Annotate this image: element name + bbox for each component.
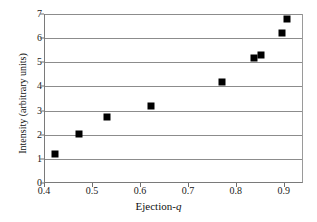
data-point — [257, 52, 264, 59]
x-tick-mark — [188, 183, 189, 187]
gridline — [45, 86, 302, 87]
plot-area — [44, 14, 303, 183]
data-point — [284, 15, 291, 22]
data-point — [219, 79, 226, 86]
x-tick-label: 0.6 — [125, 186, 155, 196]
y-tick-label: 1 — [18, 154, 42, 164]
x-tick-mark — [284, 183, 285, 187]
x-tick-mark — [236, 183, 237, 187]
gridline — [45, 159, 302, 160]
x-tick-mark — [140, 183, 141, 187]
y-tick-label: 3 — [18, 106, 42, 116]
y-tick-label: 6 — [18, 33, 42, 43]
y-tick-label: 2 — [18, 130, 42, 140]
data-point — [147, 102, 154, 109]
x-axis-label-variable: q — [176, 200, 182, 212]
data-point — [51, 151, 58, 158]
y-tick-label: 4 — [18, 81, 42, 91]
gridline — [45, 38, 302, 39]
y-tick-label: 7 — [18, 9, 42, 19]
data-point — [250, 54, 257, 61]
x-tick-label: 0.8 — [221, 186, 251, 196]
gridline — [45, 135, 302, 136]
x-tick-label: 0.9 — [269, 186, 299, 196]
x-tick-label: 0.5 — [77, 186, 107, 196]
scatter-chart-figure: Intensity (arbitrary units) 01234567 0.4… — [0, 0, 317, 222]
x-axis-label: Ejection-q — [0, 200, 317, 212]
data-point — [104, 113, 111, 120]
data-point — [75, 130, 82, 137]
gridline — [45, 111, 302, 112]
x-tick-mark — [92, 183, 93, 187]
gridline — [45, 14, 302, 15]
x-axis-label-prefix: Ejection- — [136, 200, 176, 212]
gridline — [45, 62, 302, 63]
x-tick-label: 0.4 — [29, 186, 59, 196]
y-tick-label: 5 — [18, 57, 42, 67]
x-tick-label: 0.7 — [173, 186, 203, 196]
x-tick-mark — [44, 183, 45, 187]
data-point — [279, 30, 286, 37]
